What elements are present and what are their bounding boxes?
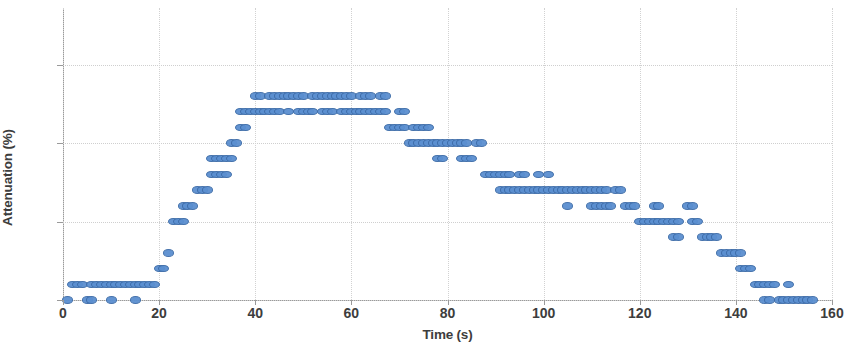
data-point — [687, 202, 698, 210]
gridline-vertical — [448, 8, 449, 300]
data-point — [187, 202, 198, 210]
data-point — [605, 202, 616, 210]
data-point — [673, 233, 684, 241]
x-tick-label: 120 — [615, 305, 665, 321]
data-point — [399, 108, 410, 116]
data-point — [673, 218, 684, 226]
x-tick-label: 80 — [423, 305, 473, 321]
data-point — [629, 202, 640, 210]
x-tick-mark — [63, 300, 64, 305]
scatter-chart: 051015 020406080100120140160 Attenuation… — [0, 0, 844, 355]
data-point — [158, 265, 169, 273]
data-point — [519, 171, 530, 179]
data-point — [221, 171, 232, 179]
gridline-vertical — [832, 8, 833, 300]
gridline-vertical — [351, 8, 352, 300]
gridline-vertical — [255, 8, 256, 300]
gridline-vertical — [159, 8, 160, 300]
data-point — [692, 218, 703, 226]
data-point — [423, 124, 434, 132]
y-axis-title-text: Attenuation (%) — [0, 129, 15, 226]
data-point — [178, 218, 189, 226]
x-tick-mark — [159, 300, 160, 305]
plot-area — [63, 8, 832, 300]
data-point — [466, 155, 477, 163]
data-point — [163, 249, 174, 257]
data-point — [226, 155, 237, 163]
x-tick-label: 160 — [807, 305, 844, 321]
gridline-vertical — [544, 8, 545, 300]
x-tick-mark — [640, 300, 641, 305]
data-point — [231, 139, 242, 147]
data-point — [562, 202, 573, 210]
data-point — [543, 171, 554, 179]
data-point — [380, 108, 391, 116]
y-axis-title: Attenuation (%) — [28, 0, 58, 355]
x-tick-label: 40 — [230, 305, 280, 321]
data-point — [240, 124, 251, 132]
data-point — [380, 92, 391, 100]
data-point — [202, 186, 213, 194]
data-point — [783, 281, 794, 289]
x-tick-label: 140 — [711, 305, 761, 321]
x-tick-mark — [736, 300, 737, 305]
gridline-vertical — [640, 8, 641, 300]
gridline-vertical — [63, 8, 64, 300]
x-tick-mark — [832, 300, 833, 305]
x-tick-mark — [351, 300, 352, 305]
data-point — [711, 233, 722, 241]
data-point — [615, 186, 626, 194]
x-tick-label: 20 — [134, 305, 184, 321]
data-point — [106, 296, 117, 304]
x-axis-title: Time (s) — [63, 327, 832, 342]
x-tick-mark — [255, 300, 256, 305]
data-point — [476, 139, 487, 147]
data-point — [86, 296, 97, 304]
x-tick-label: 100 — [519, 305, 569, 321]
x-tick-label: 60 — [326, 305, 376, 321]
data-point — [807, 296, 818, 304]
data-point — [769, 281, 780, 289]
data-point — [745, 265, 756, 273]
x-tick-mark — [448, 300, 449, 305]
data-point — [130, 296, 141, 304]
x-tick-mark — [544, 300, 545, 305]
data-point — [735, 249, 746, 257]
data-point — [149, 281, 160, 289]
data-point — [653, 202, 664, 210]
